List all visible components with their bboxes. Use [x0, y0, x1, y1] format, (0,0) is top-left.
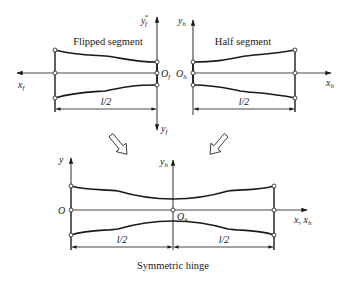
symmetric-left-y-label: y — [58, 154, 64, 165]
symmetric-x-axis-label: x, xh — [293, 214, 312, 227]
half-upper-profile — [193, 50, 295, 62]
flipped-dimension-label: l/2 — [101, 96, 112, 107]
flipped-segment: Flipped segment l/2 xf y*f yf Of — [17, 13, 171, 136]
symmetric-center-y-label: yh — [159, 156, 168, 169]
symmetric-hinge: l/2 l/2 y yh O Oh x, xh Symmetric hinge — [58, 154, 312, 271]
flipped-upper-profile — [55, 50, 157, 62]
hollow-arrow-left-icon — [106, 131, 132, 159]
symmetric-center-origin-label: Oh — [177, 211, 188, 224]
flipped-y-axis-bottom-label: yf — [160, 123, 168, 136]
symmetric-upper-profile — [71, 186, 274, 199]
half-dimension-label: l/2 — [239, 96, 250, 107]
symmetric-hinge-title: Symmetric hinge — [137, 260, 209, 271]
hollow-arrow-right-icon — [205, 131, 231, 159]
flipped-y-axis-top-label: y*f — [140, 13, 148, 28]
symmetric-lower-profile — [71, 221, 274, 235]
symmetric-left-origin-label: O — [58, 205, 65, 216]
hinge-diagram: Flipped segment l/2 xf y*f yf Of Ha — [0, 0, 347, 284]
half-origin-label: Oh — [176, 68, 187, 81]
half-segment: Half segment l/2 yh Oh xh — [176, 15, 334, 115]
half-y-axis-label: yh — [177, 15, 186, 28]
flipped-segment-title: Flipped segment — [73, 36, 143, 47]
half-segment-title: Half segment — [215, 36, 271, 47]
flipped-x-axis-label: xf — [17, 79, 25, 92]
half-x-axis-label: xh — [325, 77, 334, 90]
transition-arrows — [106, 131, 231, 159]
symmetric-nodes — [69, 184, 276, 237]
symmetric-dimension-left-label: l/2 — [117, 234, 128, 245]
flipped-origin-label: Of — [161, 68, 171, 81]
symmetric-dimension-right-label: l/2 — [219, 234, 230, 245]
